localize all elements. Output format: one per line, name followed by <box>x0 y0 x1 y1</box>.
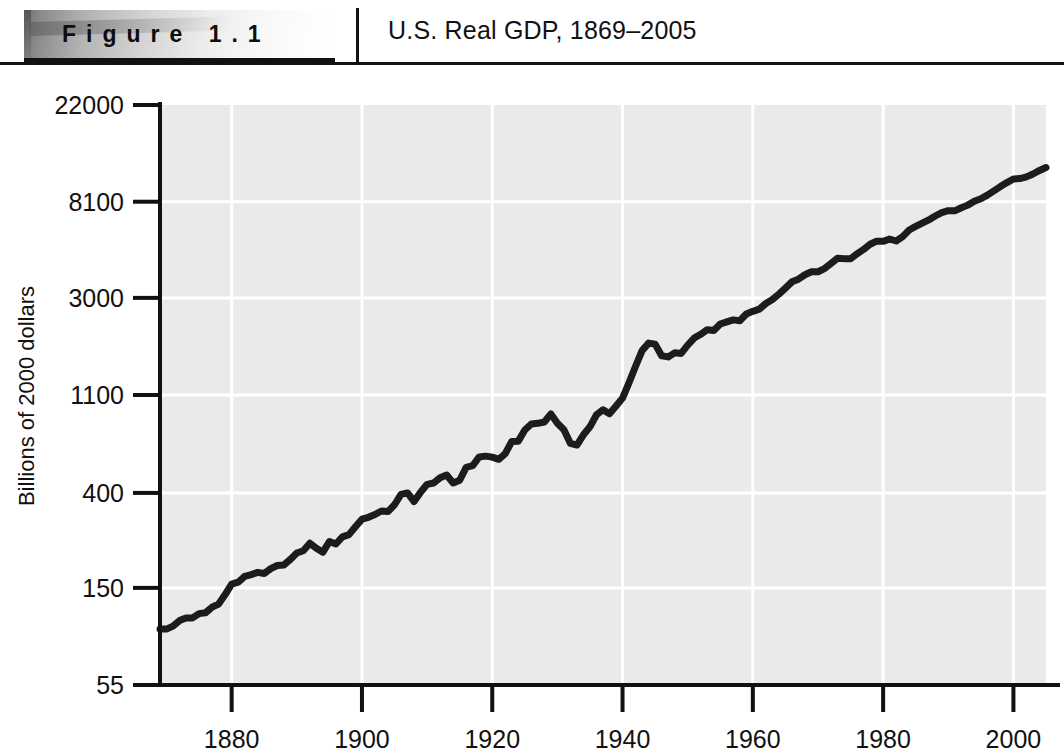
figure-title: U.S. Real GDP, 1869–2005 <box>388 16 697 45</box>
y-axis-ticks <box>133 105 160 685</box>
figure-header: Figure 1.1 U.S. Real GDP, 1869–2005 <box>0 0 1064 66</box>
figure-number-label: Figure 1.1 <box>62 21 271 48</box>
x-axis-tick-label: 2000 <box>986 725 1042 753</box>
x-axis-tick-labels: 1880190019201940196019802000 <box>204 725 1041 753</box>
y-axis-tick-label: 8100 <box>68 188 124 216</box>
y-axis-tick-label: 1100 <box>70 381 124 409</box>
x-axis-tick-label: 1880 <box>204 725 260 753</box>
x-axis-tick-label: 1920 <box>464 725 520 753</box>
y-axis-title: Billions of 2000 dollars <box>14 286 39 506</box>
y-axis-tick-labels: 5515040011003000810022000 <box>54 91 124 699</box>
y-axis-tick-label: 3000 <box>68 284 124 312</box>
figure-number-badge: Figure 1.1 <box>24 10 335 58</box>
y-axis-tick-label: 55 <box>96 671 124 699</box>
gdp-line-chart: 5515040011003000810022000 18801900192019… <box>0 66 1064 753</box>
y-axis-tick-label: 150 <box>82 574 124 602</box>
x-axis-tick-label: 1900 <box>334 725 390 753</box>
header-horizontal-rule <box>0 62 1064 65</box>
x-axis-ticks <box>232 685 1014 712</box>
y-axis-tick-label: 400 <box>82 479 124 507</box>
header-vertical-divider <box>356 8 359 62</box>
x-axis-tick-label: 1980 <box>855 725 911 753</box>
chart-container: 5515040011003000810022000 18801900192019… <box>0 66 1064 753</box>
x-axis-tick-label: 1960 <box>725 725 781 753</box>
y-axis-tick-label: 22000 <box>54 91 124 119</box>
x-axis-tick-label: 1940 <box>595 725 651 753</box>
